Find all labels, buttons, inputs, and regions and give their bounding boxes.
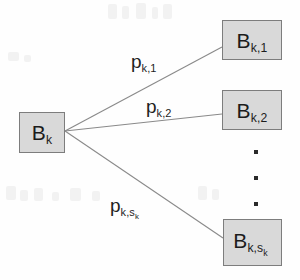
edge-label-pk2: pk,2 (146, 97, 172, 116)
edge-label-pk1: pk,1 (131, 52, 157, 71)
ellipsis-dot (254, 202, 258, 206)
node-target-bksk: Bk,sk (223, 219, 282, 266)
node-source-bk: Bk (19, 112, 65, 153)
node-target-bk1: Bk,1 (222, 20, 282, 60)
ellipsis-dot (254, 176, 258, 180)
edge-line-2 (65, 114, 222, 131)
edge-label-pksk: pk,sk (110, 196, 139, 215)
edge-line-last (65, 131, 223, 238)
node-target-2-label: Bk,2 (237, 100, 268, 121)
node-source-label: Bk (32, 122, 52, 143)
node-target-bk2: Bk,2 (222, 90, 282, 130)
node-target-1-label: Bk,1 (237, 30, 268, 51)
node-target-last-label: Bk,sk (233, 230, 268, 251)
ellipsis-dot (254, 150, 258, 154)
vertical-ellipsis (254, 150, 264, 212)
branching-diagram: Bk Bk,1 Bk,2 Bk,sk pk,1 pk,2 pk,sk (0, 0, 300, 280)
